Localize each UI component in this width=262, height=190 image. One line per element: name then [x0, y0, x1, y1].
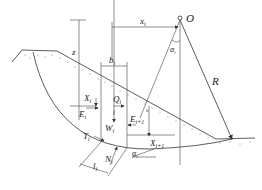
x-label: xi [139, 16, 146, 27]
center-label: O [186, 12, 194, 24]
base-angle: αi [132, 149, 156, 159]
E-i1-label: Ei+1 [129, 114, 144, 125]
b-label: bi [109, 55, 116, 66]
x-dimension: xi [112, 16, 178, 60]
l-i-label: li [93, 161, 98, 172]
T-i-label: Ti [83, 131, 90, 142]
X-i1-label: Xi+1 [149, 138, 164, 149]
z-label: z [71, 47, 76, 57]
base-forces: Ti Ni li [79, 131, 127, 176]
X-i-label: Xi [83, 93, 92, 104]
alpha-top-label: αi [170, 45, 176, 55]
radius-label: R [211, 75, 219, 87]
slope-stability-diagram: O R αi xi z bi Xi Ei Qi Wi Ei+1 [0, 0, 262, 190]
soil-stipple [25, 55, 251, 145]
alpha-bottom-label: αi [132, 149, 138, 159]
z-dimension: z [70, 20, 86, 120]
E-i-label: Ei [78, 109, 87, 120]
h-label: h [146, 108, 149, 113]
Q-i-label: Qi [113, 94, 122, 105]
slip-surface-arc [33, 52, 232, 149]
W-i-label: Wi [105, 123, 115, 134]
N-i-label: Ni [104, 154, 113, 165]
